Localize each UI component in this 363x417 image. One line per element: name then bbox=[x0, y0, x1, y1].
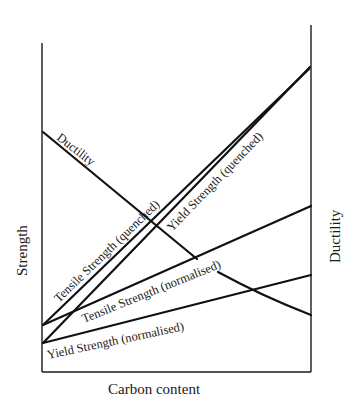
carbon-content-diagram: Ductility Tensile Strength (quenched) Yi… bbox=[0, 0, 363, 417]
ductility-label: Ductility bbox=[54, 130, 98, 169]
y-axis-left-label: Strength bbox=[14, 225, 30, 276]
yield-quenched-line bbox=[43, 67, 310, 343]
x-axis-label: Carbon content bbox=[108, 381, 201, 397]
yield-quenched-label: Yield Strength (quenched) bbox=[164, 129, 266, 234]
y-axis-right-label: Ductility bbox=[327, 209, 343, 263]
